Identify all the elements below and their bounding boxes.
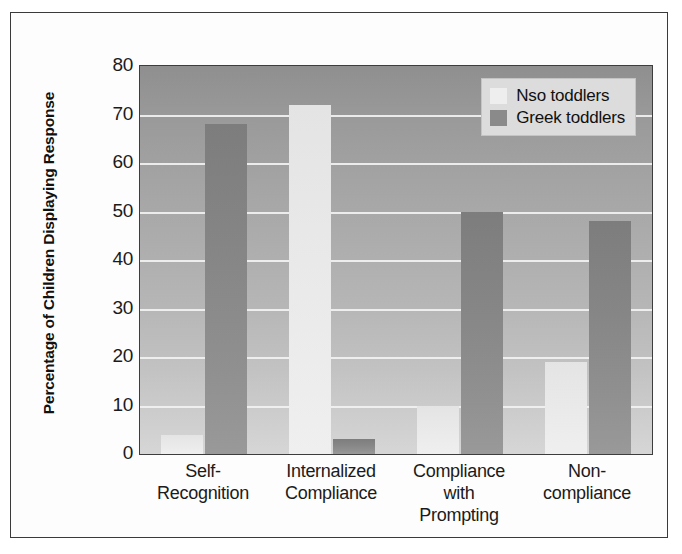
bar-nso-2 [417,406,459,455]
legend-swatch-nso [490,88,507,104]
legend-item-greek: Greek toddlers [490,107,625,129]
plot-area: Nso toddlers Greek toddlers [139,65,653,455]
y-axis-tick-30: 30 [112,297,133,319]
y-axis-tick-50: 50 [112,200,133,222]
y-axis-title-container: Percentage of Children Displaying Respon… [27,53,71,453]
y-axis-tick-80: 80 [112,54,133,76]
legend-item-nso: Nso toddlers [490,85,625,107]
bar-nso-1 [289,105,331,454]
bar-nso-3 [545,362,587,454]
x-axis-tick-labels: Self- RecognitionInternalized Compliance… [139,461,651,527]
y-axis-tick-40: 40 [112,248,133,270]
legend-label-greek: Greek toddlers [516,108,625,128]
bar-greek-0 [205,124,247,454]
y-axis-title: Percentage of Children Displaying Respon… [40,92,58,414]
x-axis-label-0: Self- Recognition [139,461,267,527]
y-axis-tick-60: 60 [112,151,133,173]
x-axis-label-2: Compliance with Prompting [395,461,523,527]
y-axis-tick-labels: 80706050403020100 [89,65,133,453]
bar-greek-1 [333,439,375,454]
y-axis-tick-70: 70 [112,103,133,125]
legend-swatch-greek [490,110,507,126]
y-axis-tick-0: 0 [123,442,133,464]
legend-label-nso: Nso toddlers [516,86,609,106]
x-axis-label-3: Non- compliance [523,461,651,527]
bar-greek-3 [589,221,631,454]
bar-nso-0 [161,435,203,454]
figure-frame: Percentage of Children Displaying Respon… [10,12,668,538]
bar-greek-2 [461,212,503,455]
x-axis-label-1: Internalized Compliance [267,461,395,527]
legend: Nso toddlers Greek toddlers [481,78,636,136]
y-axis-tick-10: 10 [112,394,133,416]
y-axis-tick-20: 20 [112,345,133,367]
